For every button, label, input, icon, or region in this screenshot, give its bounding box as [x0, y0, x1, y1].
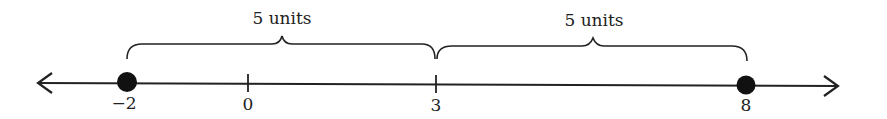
number-line-axis	[38, 83, 838, 86]
point-minus-2	[117, 72, 137, 92]
brace-right	[437, 38, 747, 61]
number-line-diagram: −2 0 3 8 5 units 5 units	[0, 0, 887, 119]
brace-label-right: 5 units	[564, 10, 623, 30]
point-8	[737, 76, 756, 95]
tick-label-0: 0	[243, 94, 254, 114]
tick-label-3: 3	[431, 95, 442, 115]
tick-label-minus-2: −2	[111, 93, 136, 113]
brace-left	[127, 36, 435, 59]
brace-label-left: 5 units	[252, 8, 311, 28]
tick-label-8: 8	[741, 95, 752, 115]
